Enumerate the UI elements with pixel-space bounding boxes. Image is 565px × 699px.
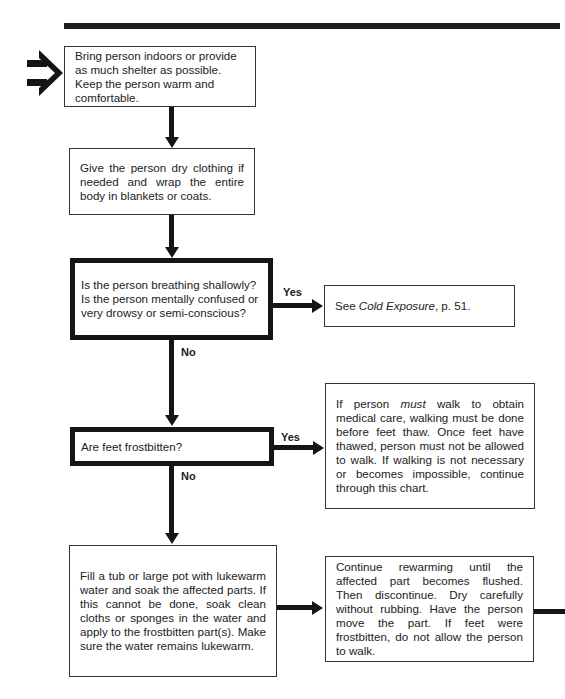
decision-feet-text: Are feet frostbitten? (81, 440, 182, 454)
connector (274, 445, 314, 450)
arrow-right-icon (313, 441, 324, 455)
step-dry-clothing: Give the person dry clothing if needed a… (69, 148, 255, 215)
entry-arrow-icon (27, 50, 63, 96)
arrow-down-icon (165, 533, 179, 544)
connector (169, 107, 174, 138)
arrow-down-icon (165, 137, 179, 148)
connector (277, 605, 313, 610)
step-see-cold-exposure-text: See Cold Exposure, p. 51. (335, 299, 470, 313)
step-rewarm: Continue rewarming until the affected pa… (325, 556, 534, 662)
decision-breathing: Is the person breathing shallowly? Is th… (70, 258, 273, 340)
yes-label: Yes (281, 431, 300, 443)
step-must-walk: If person must walk to obtain medical ca… (325, 383, 535, 509)
step-dry-clothing-text: Give the person dry clothing if needed a… (80, 161, 244, 203)
step-shelter: Bring person indoors or provide as much … (64, 46, 256, 107)
step-soak: Fill a tub or large pot with lukewarm wa… (69, 545, 277, 677)
connector (169, 215, 174, 248)
no-label: No (181, 470, 196, 482)
connector (273, 303, 313, 308)
step-see-cold-exposure: See Cold Exposure, p. 51. (324, 285, 515, 327)
step-soak-text: Fill a tub or large pot with lukewarm wa… (80, 569, 266, 653)
step-shelter-text: Bring person indoors or provide as much … (75, 49, 245, 105)
cross-reference-link: Cold Exposure (359, 299, 435, 312)
arrow-down-icon (165, 247, 179, 258)
connector (169, 466, 174, 535)
arrow-right-icon (312, 601, 323, 615)
arrow-down-icon (165, 415, 179, 426)
decision-feet: Are feet frostbitten? (70, 427, 274, 466)
arrow-right-icon (312, 299, 323, 313)
connector (169, 340, 174, 417)
connector (534, 609, 565, 614)
yes-label: Yes (283, 286, 302, 298)
header-rule (64, 23, 560, 29)
no-label: No (181, 346, 196, 358)
step-must-walk-text: If person must walk to obtain medical ca… (336, 397, 524, 495)
step-rewarm-text: Continue rewarming until the affected pa… (336, 560, 523, 658)
decision-breathing-text: Is the person breathing shallowly? Is th… (81, 278, 262, 320)
